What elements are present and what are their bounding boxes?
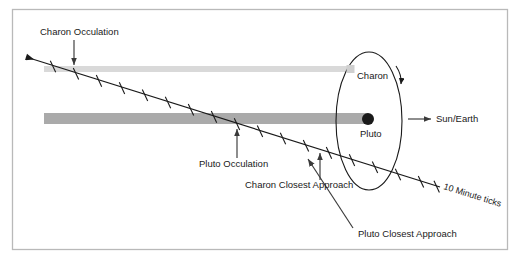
pluto-occultation-label: Pluto Occulation	[199, 158, 268, 169]
charon-body-marker	[347, 66, 354, 73]
orbit-direction-arrow-icon	[396, 66, 401, 84]
diagram-canvas: Charon Occulation Pluto Occulation Charo…	[0, 0, 520, 259]
charon-shadow-bar	[44, 66, 350, 72]
sun-earth-label: Sun/Earth	[436, 113, 478, 124]
pluto-closest-approach-leader	[308, 159, 353, 228]
charon-closest-approach-label: Charon Closest Approach	[245, 179, 353, 190]
occultation-diagram: Charon Occulation Pluto Occulation Charo…	[0, 0, 520, 259]
pluto-body-marker	[362, 113, 374, 125]
charon-occultation-label: Charon Occulation	[40, 26, 119, 37]
pluto-closest-approach-label: Pluto Closest Approach	[358, 228, 457, 239]
tick-legend-label: 10 Minute ticks	[442, 181, 503, 209]
pluto-label: Pluto	[360, 128, 382, 139]
charon-label: Charon	[357, 70, 388, 81]
figure-border	[13, 10, 508, 250]
pluto-shadow-bar	[44, 113, 368, 124]
